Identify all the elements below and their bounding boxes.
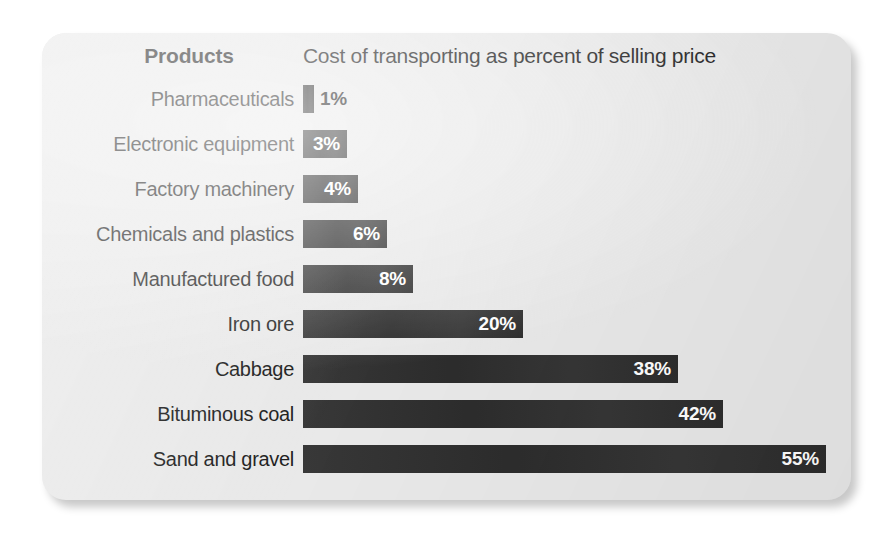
chart-row: Sand and gravel55% [42,445,851,490]
bar-value-label: 55% [782,445,819,473]
bar-value-label: 1% [320,85,347,113]
bar-area: 38% [303,355,678,383]
chart-row: Electronic equipment3% [42,130,851,175]
category-label: Cabbage [42,355,294,383]
chart-row: Iron ore20% [42,310,851,355]
category-label: Electronic equipment [42,130,294,158]
bar [303,85,314,113]
category-label: Iron ore [42,310,294,338]
bar-area: 42% [303,400,723,428]
bar: 42% [303,400,723,428]
bar-area: 4% [303,175,358,203]
bar-value-label: 8% [379,265,406,293]
chart-row: Cabbage38% [42,355,851,400]
category-label: Bituminous coal [42,400,294,428]
screenshot-root: Products Cost of transporting as percent… [0,0,890,534]
bar-area: 8% [303,265,413,293]
chart-row: Bituminous coal42% [42,400,851,445]
bar-area: 1% [303,85,314,113]
chart-row: Factory machinery4% [42,175,851,220]
bar: 55% [303,445,826,473]
bar-area: 20% [303,310,523,338]
chart-card: Products Cost of transporting as percent… [42,33,851,500]
bar: 20% [303,310,523,338]
chart-row: Chemicals and plastics6% [42,220,851,265]
column-header-products: Products [84,44,294,68]
bar-area: 6% [303,220,387,248]
bar: 4% [303,175,358,203]
bar-value-label: 4% [324,175,351,203]
category-label: Sand and gravel [42,445,294,473]
bar-value-label: 20% [479,310,516,338]
bar: 6% [303,220,387,248]
category-label: Factory machinery [42,175,294,203]
chart-header: Products Cost of transporting as percent… [42,44,851,78]
bar-value-label: 38% [634,355,671,383]
bar: 3% [303,130,347,158]
bar-area: 55% [303,445,826,473]
bar-value-label: 6% [353,220,380,248]
bar-value-label: 42% [679,400,716,428]
bar: 8% [303,265,413,293]
category-label: Manufactured food [42,265,294,293]
category-label: Pharmaceuticals [42,85,294,113]
chart-row: Pharmaceuticals1% [42,85,851,130]
column-header-metric: Cost of transporting as percent of selli… [303,44,716,68]
chart-row: Manufactured food8% [42,265,851,310]
category-label: Chemicals and plastics [42,220,294,248]
bar: 38% [303,355,678,383]
bar-value-label: 3% [313,130,340,158]
bar-area: 3% [303,130,347,158]
bar-chart-plot: Pharmaceuticals1%Electronic equipment3%F… [42,85,851,495]
